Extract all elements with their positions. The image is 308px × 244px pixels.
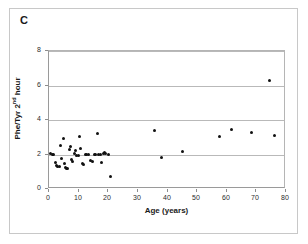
x-tick-mark-0 <box>48 189 49 192</box>
panel-label: C <box>20 14 28 26</box>
x-tick-label-40: 40 <box>159 194 175 202</box>
data-point <box>59 144 62 147</box>
x-tick-mark-20 <box>107 189 108 192</box>
data-point <box>78 135 81 138</box>
y-axis-title: Phe/Tyr 2nd hour <box>13 54 22 164</box>
data-point <box>87 153 90 156</box>
y-axis-title-main: Phe/Tyr 2 <box>13 104 22 139</box>
data-point <box>66 167 69 170</box>
data-point <box>71 160 74 163</box>
data-point <box>153 129 156 132</box>
data-point <box>63 162 66 165</box>
x-tick-label-20: 20 <box>99 194 115 202</box>
x-tick-label-80: 80 <box>277 194 293 202</box>
y-tick-label-4: 4 <box>27 115 41 123</box>
data-point <box>91 160 94 163</box>
y-tick-mark-8 <box>45 50 48 51</box>
data-point <box>100 161 103 164</box>
data-point <box>273 134 276 137</box>
data-point <box>107 153 110 156</box>
data-point <box>74 149 77 152</box>
y-axis-title-superscript: nd <box>11 97 17 104</box>
gridline-y-4 <box>49 120 284 121</box>
x-tick-label-70: 70 <box>247 194 263 202</box>
gridline-y-8 <box>49 51 284 52</box>
data-point <box>62 137 65 140</box>
x-tick-label-30: 30 <box>129 194 145 202</box>
x-axis-title: Age (years) <box>48 206 285 215</box>
y-tick-mark-6 <box>45 85 48 86</box>
gridline-y-6 <box>49 86 284 87</box>
y-tick-label-0: 0 <box>27 184 41 192</box>
x-tick-mark-80 <box>285 189 286 192</box>
y-tick-label-2: 2 <box>27 150 41 158</box>
data-point <box>96 132 99 135</box>
data-point <box>160 156 163 159</box>
data-point <box>109 175 112 178</box>
data-point <box>250 131 253 134</box>
data-point <box>58 165 61 168</box>
figure-panel-c: C Phe/Tyr 2nd hour Age (years) 024680102… <box>0 0 308 244</box>
x-tick-label-10: 10 <box>70 194 86 202</box>
y-tick-mark-4 <box>45 119 48 120</box>
data-point <box>60 157 63 160</box>
x-tick-mark-10 <box>78 189 79 192</box>
x-tick-mark-50 <box>196 189 197 192</box>
y-tick-mark-2 <box>45 154 48 155</box>
data-point <box>77 154 80 157</box>
x-tick-mark-40 <box>167 189 168 192</box>
data-point <box>218 135 221 138</box>
data-point <box>181 150 184 153</box>
x-tick-label-60: 60 <box>218 194 234 202</box>
data-point <box>68 148 71 151</box>
data-point <box>268 79 271 82</box>
x-tick-mark-60 <box>226 189 227 192</box>
data-point <box>230 128 233 131</box>
x-tick-mark-30 <box>137 189 138 192</box>
y-tick-label-6: 6 <box>27 81 41 89</box>
plot-area <box>48 50 285 188</box>
y-axis-title-tail: hour <box>13 77 22 97</box>
x-tick-label-0: 0 <box>40 194 56 202</box>
data-point <box>79 147 82 150</box>
x-tick-mark-70 <box>255 189 256 192</box>
data-point <box>69 145 72 148</box>
x-tick-label-50: 50 <box>188 194 204 202</box>
data-point <box>82 163 85 166</box>
y-tick-label-8: 8 <box>27 46 41 54</box>
